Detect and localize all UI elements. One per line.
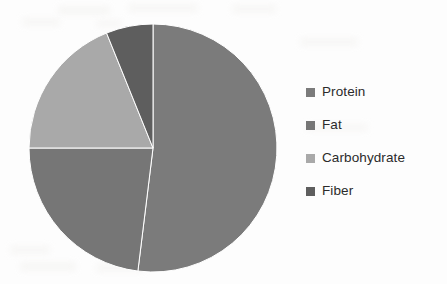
pie-slice-fat[interactable] [29,148,153,271]
legend-label-fat: Fat [322,118,342,132]
pie-graphic [29,24,277,272]
legend-label-protein: Protein [322,85,365,99]
legend-swatch-fiber [306,187,315,196]
legend-item-protein[interactable]: Protein [306,86,438,98]
legend-swatch-fat [306,121,315,130]
legend-label-fiber: Fiber [322,184,353,198]
legend-item-carbohydrate[interactable]: Carbohydrate [306,152,438,164]
legend-item-fiber[interactable]: Fiber [306,185,438,197]
pie-slice-protein[interactable] [138,24,277,272]
pie-slice-group [29,24,277,272]
legend-swatch-carbohydrate [306,154,315,163]
pie-chart: Protein Fat Carbohydrate Fiber [0,0,447,284]
chart-legend: Protein Fat Carbohydrate Fiber [306,86,438,197]
pie-svg [29,24,277,272]
legend-swatch-protein [306,88,315,97]
legend-item-fat[interactable]: Fat [306,119,438,131]
legend-label-carbohydrate: Carbohydrate [322,151,405,165]
